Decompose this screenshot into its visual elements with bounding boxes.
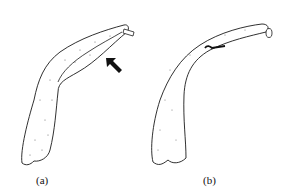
panel-b-drawing (152, 24, 272, 164)
arrow-icon (106, 58, 122, 73)
panel-a-label: (a) (36, 174, 48, 186)
panel-a-outline (22, 25, 129, 165)
figure-canvas (0, 0, 286, 195)
panel-a-drawing (22, 25, 134, 165)
panel-b-tip-loop (266, 29, 272, 38)
panel-a-tip-tube (123, 29, 134, 36)
panel-b-label: (b) (203, 174, 216, 186)
panel-b-outline (152, 24, 268, 164)
